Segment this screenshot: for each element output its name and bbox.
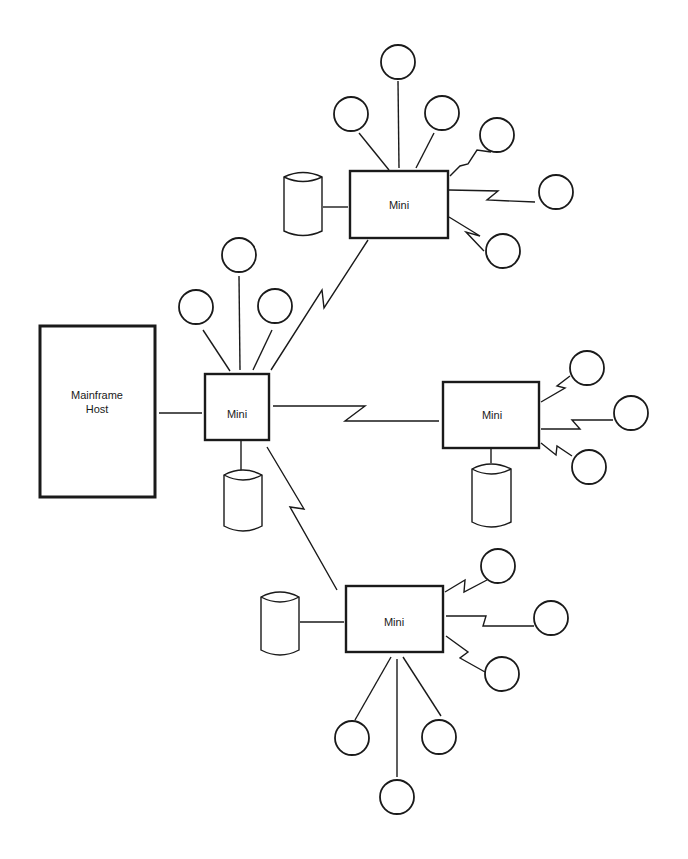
mini-center-label: Mini xyxy=(227,408,247,420)
mainframe-label-line2: Host xyxy=(86,403,109,415)
mini-right-terminals xyxy=(541,351,648,484)
mainframe-host-node: Mainframe Host xyxy=(40,326,155,497)
mini-bottom-node: Mini xyxy=(346,586,443,652)
mainframe-label-line1: Mainframe xyxy=(71,389,123,401)
terminal-icon xyxy=(481,549,515,583)
terminal-icon xyxy=(486,234,520,268)
terminal-icon xyxy=(422,720,456,754)
terminal-icon xyxy=(222,238,256,272)
mini-right-disk xyxy=(472,449,511,527)
mini-top-node: Mini xyxy=(350,171,448,238)
terminal-icon xyxy=(380,780,414,814)
mini-center-disk xyxy=(224,441,262,531)
mini-right-label: Mini xyxy=(482,409,502,421)
terminal-icon xyxy=(570,351,604,385)
terminal-icon xyxy=(334,97,368,131)
mini-bottom-label: Mini xyxy=(384,616,404,628)
terminal-icon xyxy=(179,290,213,324)
mini-right-node: Mini xyxy=(443,382,539,448)
terminal-icon xyxy=(534,601,568,635)
remote-link-right xyxy=(273,406,439,421)
mini-center-terminals xyxy=(179,238,292,371)
terminal-icon xyxy=(614,396,648,430)
terminal-icon xyxy=(572,450,606,484)
mini-bottom-disk xyxy=(261,592,344,655)
terminal-icon xyxy=(480,118,514,152)
remote-link-bottom xyxy=(267,447,337,590)
distributed-network-diagram: Mainframe Host Mini Mini xyxy=(0,0,688,859)
mini-center-node: Mini xyxy=(205,374,269,440)
terminal-icon xyxy=(381,45,415,79)
terminal-icon xyxy=(485,657,519,691)
terminal-icon xyxy=(258,289,292,323)
terminal-icon xyxy=(425,96,459,130)
terminal-icon xyxy=(335,721,369,755)
mini-top-disk xyxy=(284,173,348,236)
terminal-icon xyxy=(539,175,573,209)
mini-top-label: Mini xyxy=(389,199,409,211)
